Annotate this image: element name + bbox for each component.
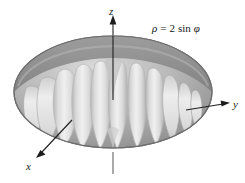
equation-phi: φ: [191, 22, 200, 34]
equation-equals: =: [157, 22, 169, 34]
surface-plot-svg: z y x: [0, 0, 245, 183]
axis-label-y: y: [232, 98, 238, 110]
equation-label: ρ=2sinφ: [152, 22, 200, 34]
axis-label-x: x: [25, 160, 31, 172]
figure-container: z y x ρ=2sinφ: [0, 0, 245, 183]
equation-function: sin: [175, 22, 191, 34]
axis-label-z: z: [108, 5, 114, 17]
